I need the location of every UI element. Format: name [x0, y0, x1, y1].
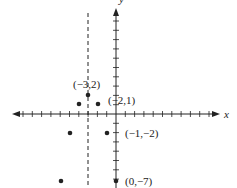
y-axis-up-arrow-icon: [113, 8, 119, 16]
coordinate-plane: x y (−3,2) (−2,1) (−1,−2) (0,−7): [0, 0, 237, 188]
point-0-neg7: [114, 179, 119, 184]
label-neg3-2: (−3,2): [73, 78, 101, 91]
label-neg1-neg2: (−1,−2): [125, 127, 159, 140]
label-0-neg7: (0,−7): [125, 175, 153, 188]
x-axis-label: x: [223, 108, 229, 120]
point-neg2-1: [96, 102, 101, 107]
point-neg1-neg2: [105, 131, 110, 136]
point-neg6-neg7: [59, 179, 64, 184]
x-axis-right-arrow-icon: [212, 111, 220, 117]
label-neg2-1: (−2,1): [108, 94, 136, 107]
point-neg3-2: [86, 93, 91, 98]
y-axis-label: y: [118, 0, 124, 5]
x-axis-left-arrow-icon: [12, 111, 20, 117]
point-neg4-1: [77, 102, 82, 107]
point-neg5-neg2: [68, 131, 73, 136]
x-axis: x: [12, 108, 229, 120]
